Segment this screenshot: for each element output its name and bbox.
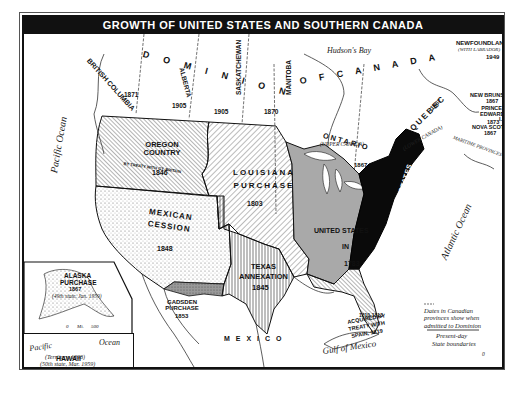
label-newfoundland: NEWFOUNDLAND: [456, 40, 504, 46]
label-saskatchewan-year: 1905: [214, 109, 228, 116]
label-hudsons-bay: Hudson's Bay: [324, 47, 374, 55]
label-with-labrador: (WITH LABRADOR): [458, 47, 500, 52]
label-gadsden-purchase: GADSDEN PURCHASE: [162, 299, 202, 311]
label-nova-scotia-year: 1867: [484, 131, 496, 137]
legend-note-3: admitted to Dominion: [424, 323, 481, 330]
label-ontario-year: 1867: [354, 162, 367, 168]
label-alaska-year: 1867: [69, 287, 81, 293]
map-frame: GROWTH OF UNITED STATES AND SOUTHERN CAN…: [22, 15, 504, 369]
label-gadsden-year: 1853: [175, 313, 188, 319]
alaska-scale-max: 500: [91, 324, 99, 329]
map-title: GROWTH OF UNITED STATES AND SOUTHERN CAN…: [24, 17, 502, 34]
label-louisiana-purchase: LOUISIANA PURCHASE: [229, 167, 299, 193]
label-upper-canada: (UPPER CANADA): [320, 142, 364, 148]
label-alaska-statehood: (49th state, Jan. 1959): [52, 294, 102, 300]
alaska-scale-zero: 0: [66, 324, 69, 329]
label-manitoba-year: 1870: [264, 109, 278, 116]
label-manitoba: MANITOBA: [286, 60, 293, 95]
label-us-1783-line2: IN: [342, 243, 349, 250]
label-bc-year: 1871: [124, 92, 138, 99]
label-us-1783-year: 1783: [344, 260, 360, 267]
alaska-scale-unit: Mi.: [77, 324, 84, 329]
label-hawaii-ocean: Ocean: [99, 339, 120, 347]
label-hawaii-territory: (Territory, 1898): [45, 354, 85, 360]
legend-scale-zero: 0: [482, 352, 485, 358]
label-texas-year: 1845: [252, 284, 269, 292]
label-mexican-cession-year: 1848: [157, 245, 173, 252]
gadsden-purchase: [164, 282, 224, 296]
label-texas-annexation: TEXAS ANNEXATION: [236, 262, 291, 282]
label-us-1783-line1: UNITED STATES: [314, 227, 369, 234]
label-newfoundland-year: 1949: [486, 54, 499, 60]
label-oregon-year: 1846: [152, 169, 168, 176]
label-alberta-year: 1905: [172, 103, 186, 110]
legend-note-2: provinces show when: [424, 315, 479, 322]
label-louisiana-year: 1803: [247, 200, 263, 207]
label-saskatchewan: SASKATCHEWAN: [236, 40, 243, 95]
label-mexico: M E X I C O: [224, 335, 283, 342]
legend-boundaries-2: State boundaries: [432, 341, 476, 348]
label-hawaii-statehood: (50th state, Mar. 1959): [40, 361, 95, 367]
label-oregon-country: OREGON COUNTRY: [132, 141, 192, 156]
legend-boundaries-1: Present-day: [436, 333, 467, 340]
label-new-brunswick-year: 1867: [486, 99, 498, 105]
